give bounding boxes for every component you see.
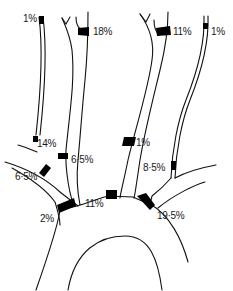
flow-label-2pct: 2% xyxy=(40,214,54,224)
left-vessel-upper-wall xyxy=(5,162,78,206)
right-vessel-outer-wall xyxy=(158,182,205,208)
center-vessel-twig-1 xyxy=(140,14,150,22)
vessel-18-right xyxy=(77,12,88,205)
arch-inner-wall xyxy=(68,236,162,290)
flow-label-1pct-right: 1% xyxy=(211,27,225,37)
band-2pct xyxy=(57,198,76,213)
aortic-arch-diagram xyxy=(0,0,233,291)
band-1pct-right xyxy=(203,23,208,29)
band-6-5pct-mid xyxy=(58,153,68,159)
flow-label-1pct-center: 1% xyxy=(136,138,150,148)
right-thin-vessel-a xyxy=(171,16,204,178)
right-vessel-lower-wall xyxy=(175,165,216,178)
vessel-18-twig-1 xyxy=(62,17,70,24)
band-18pct xyxy=(78,27,89,36)
left-branch-connector xyxy=(18,145,37,152)
band-1pct-left xyxy=(39,16,44,24)
flow-label-18pct: 18% xyxy=(93,27,112,37)
band-11pct-top xyxy=(156,26,171,36)
flow-label-11pct-top: 11% xyxy=(173,27,191,37)
flow-label-19-5pct: 19·5% xyxy=(157,211,184,221)
band-11pct-arch xyxy=(106,190,117,199)
left-thin-vessel-a xyxy=(36,17,41,135)
flow-label-11pct-arch: 11% xyxy=(85,199,103,209)
flow-label-8-5pct: 8·5% xyxy=(143,163,165,173)
vessel-18-twig-2 xyxy=(76,17,80,29)
flow-label-1pct-left: 1% xyxy=(23,14,37,24)
flow-label-6-5pct-left: 6·5% xyxy=(15,172,37,182)
vessel-18-left xyxy=(62,18,75,206)
band-6-5pct-left xyxy=(39,164,51,177)
band-8-5pct xyxy=(171,161,176,170)
flow-label-14pct: 14% xyxy=(37,139,56,149)
flow-label-6-5pct-mid: 6·5% xyxy=(71,155,93,165)
band-1pct-center xyxy=(122,137,136,146)
